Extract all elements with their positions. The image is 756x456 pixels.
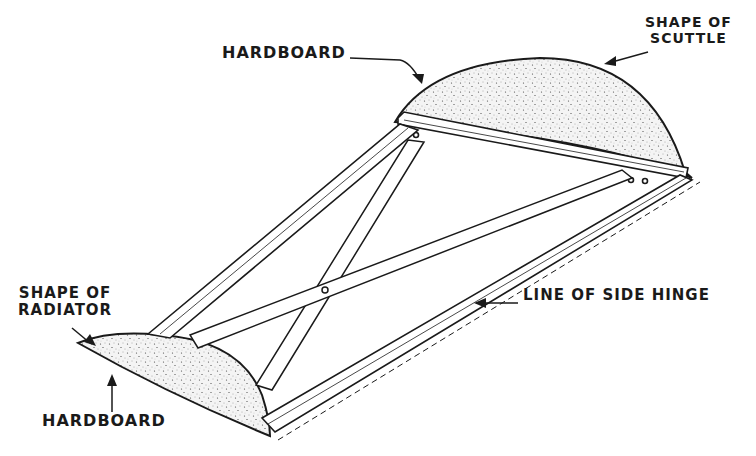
radiator-label-line1: SHAPE OF: [18, 285, 112, 302]
hardboard-label-bottom: HARDBOARD: [42, 412, 166, 430]
hardboard-label-top: HARDBOARD: [222, 44, 346, 62]
scuttle-label-line1: SHAPE OF: [645, 14, 732, 30]
scuttle-label: SHAPE OF SCUTTLE: [645, 14, 732, 46]
side-hinge-label: LINE OF SIDE HINGE: [523, 287, 710, 304]
radiator-label: SHAPE OF RADIATOR: [18, 285, 112, 320]
scuttle-label-line2: SCUTTLE: [645, 30, 732, 46]
frame-diagram: [0, 0, 756, 456]
radiator-label-line2: RADIATOR: [18, 302, 112, 319]
